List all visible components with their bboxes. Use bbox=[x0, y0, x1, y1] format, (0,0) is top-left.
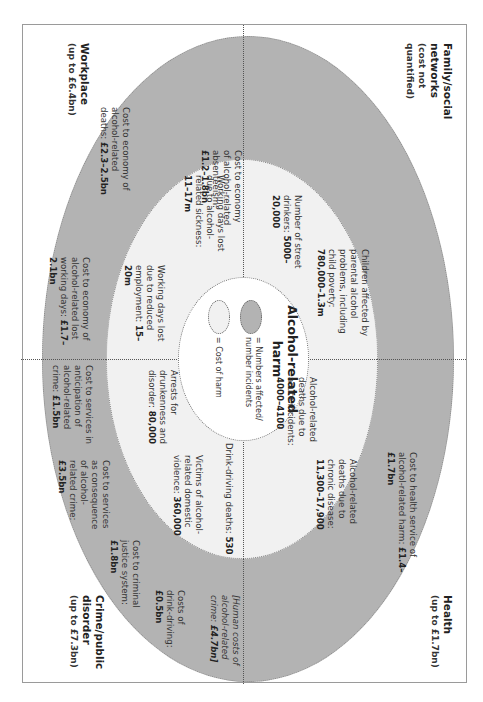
family-heading: Family/social networks (cost not quantif… bbox=[404, 43, 454, 133]
value: 11,300–17,900 bbox=[315, 459, 325, 530]
workplace-number-reduced-employment: Working days lost due to reduced employm… bbox=[122, 265, 166, 345]
health-cost-service: Cost to health service of alcohol-relate… bbox=[385, 452, 418, 582]
workplace-subheading: (up to £6.4bn) bbox=[66, 43, 78, 133]
label: Cost to health service of alcohol-relate… bbox=[397, 452, 418, 557]
family-heading-text: Family/social networks bbox=[429, 43, 454, 119]
value: 360,000 bbox=[172, 497, 182, 536]
health-number-chronic-deaths: Alcohol-related deaths due to chronic di… bbox=[314, 459, 358, 539]
family-number-street-drinkers: Number of street drinkers: 5000–20,000 bbox=[270, 195, 303, 275]
label: Drink-driving deaths: bbox=[224, 443, 234, 534]
diagram-frame: Alcohol-related harm = Numbers affected/… bbox=[22, 24, 467, 683]
legend-cost-label: = Cost of harm bbox=[213, 337, 224, 433]
value: 80,000 bbox=[147, 411, 157, 444]
crime-number-arrests: Arrests for drunkenness and disorder: 80… bbox=[146, 370, 179, 445]
health-heading-text: Health bbox=[442, 595, 454, 634]
value: £3.5bn bbox=[57, 460, 67, 493]
crime-cost-consequence: Cost to services as consequence of alcoh… bbox=[56, 460, 111, 530]
workplace-heading-text: Workplace bbox=[79, 43, 91, 105]
legend-numbers-swatch bbox=[240, 300, 262, 334]
label: Alcohol-related deaths due to acute inci… bbox=[286, 377, 318, 446]
label: Costs of drink-driving: bbox=[165, 590, 186, 648]
legend-cost-swatch bbox=[208, 300, 230, 334]
crime-number-drink-driving-deaths: Drink-driving deaths: 530 bbox=[223, 443, 234, 568]
crime-subheading: (up to £7.3bn) bbox=[68, 595, 80, 680]
value: £0.5bn bbox=[154, 590, 164, 623]
family-number-children: Children affected by parental alcohol pr… bbox=[315, 249, 370, 349]
crime-cost-anticipation: Cost to services in anticipation of alco… bbox=[50, 365, 94, 455]
label: Alcohol-related deaths due to chronic di… bbox=[326, 459, 358, 529]
health-subheading: (up to £1.7bn) bbox=[429, 595, 441, 675]
value: 780,000–1.3m bbox=[316, 249, 326, 317]
value: 530 bbox=[224, 536, 234, 554]
family-subheading: (cost not quantified) bbox=[404, 43, 428, 133]
crime-number-domestic-violence: Victims of alcohol-related domestic viol… bbox=[171, 455, 204, 540]
value: £1.8bn bbox=[109, 540, 119, 573]
value: £2.3–2.5bn bbox=[99, 142, 109, 195]
label: Children affected by parental alcohol pr… bbox=[327, 249, 370, 336]
health-heading: Health (up to £1.7bn) bbox=[429, 595, 454, 675]
label: Cost to services as consequence of alcoh… bbox=[68, 460, 111, 529]
value: 11–17m bbox=[183, 175, 193, 212]
value: £4.7bn] bbox=[209, 625, 219, 662]
workplace-cost-deaths: Cost to economy of alcohol-related death… bbox=[98, 107, 131, 197]
label: Cost to criminal justice system: bbox=[120, 540, 141, 608]
crime-cost-human: [Human costs of alcohol-related crime: £… bbox=[208, 595, 241, 670]
health-number-acute-deaths: Alcohol-related deaths due to acute inci… bbox=[274, 377, 318, 457]
crime-cost-justice: Cost to criminal justice system: £1.8bn bbox=[108, 540, 141, 610]
value: £1.5bn bbox=[51, 395, 61, 428]
workplace-number-sickness: Working days lost due to alcohol-related… bbox=[182, 175, 226, 260]
workplace-heading: Workplace (up to £6.4bn) bbox=[66, 43, 91, 133]
workplace-cost-lost-days: Cost to economy of alcohol-related lost … bbox=[47, 257, 91, 347]
label: Working days lost due to alcohol-related… bbox=[194, 175, 226, 251]
crime-cost-drink-driving: Costs of drink-driving: £0.5bn bbox=[153, 590, 186, 650]
crime-heading: Crime/public disorder (up to £7.3bn) bbox=[68, 595, 106, 680]
value: 4000–4100 bbox=[275, 377, 285, 429]
crime-heading-text: Crime/public disorder bbox=[81, 595, 106, 669]
legend-numbers-label: = Numbers affected/ number incidents bbox=[243, 337, 263, 433]
